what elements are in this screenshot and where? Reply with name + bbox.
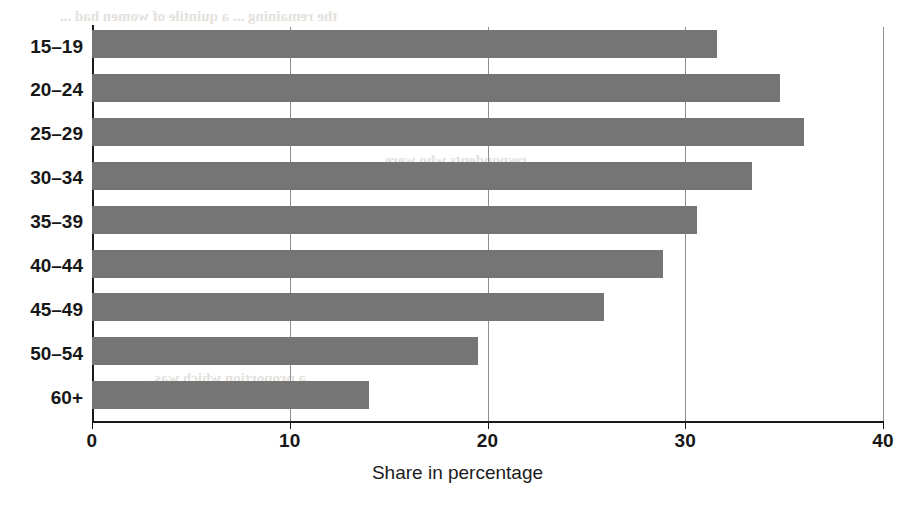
y-category-label: 30–34 bbox=[30, 168, 83, 187]
y-category-label: 20–24 bbox=[30, 80, 83, 99]
bar-chart: 15–1920–2425–2930–3435–3940–4445–4950–54… bbox=[0, 0, 915, 507]
bar bbox=[92, 118, 804, 146]
y-category-label: 35–39 bbox=[30, 212, 83, 231]
y-category-label: 15–19 bbox=[30, 37, 83, 56]
bar bbox=[92, 206, 697, 234]
x-tick-0 bbox=[92, 421, 93, 429]
bar bbox=[92, 30, 717, 58]
y-category-label: 50–54 bbox=[30, 344, 83, 363]
bar-row: 15–19 bbox=[92, 30, 883, 58]
x-tick-30 bbox=[685, 421, 686, 429]
x-tick-20 bbox=[488, 421, 489, 429]
bar-row: 60+ bbox=[92, 381, 883, 409]
bar-row: 30–34 bbox=[92, 162, 883, 190]
x-tick-label-30: 30 bbox=[674, 430, 696, 452]
bar bbox=[92, 337, 478, 365]
x-tick-label-10: 10 bbox=[279, 430, 301, 452]
y-category-label: 60+ bbox=[51, 388, 83, 407]
x-tick-10 bbox=[290, 421, 291, 429]
x-axis-title: Share in percentage bbox=[0, 462, 915, 484]
x-tick-label-20: 20 bbox=[477, 430, 499, 452]
x-tick-40 bbox=[883, 421, 884, 429]
bar-row: 45–49 bbox=[92, 293, 883, 321]
y-category-label: 45–49 bbox=[30, 300, 83, 319]
x-tick-label-40: 40 bbox=[872, 430, 894, 452]
bar-row: 20–24 bbox=[92, 74, 883, 102]
plot-area: 15–1920–2425–2930–3435–3940–4445–4950–54… bbox=[92, 27, 883, 421]
gridline-40 bbox=[883, 27, 884, 421]
bar bbox=[92, 293, 604, 321]
bar-row: 35–39 bbox=[92, 206, 883, 234]
bar-row: 25–29 bbox=[92, 118, 883, 146]
bar bbox=[92, 381, 369, 409]
bar bbox=[92, 74, 780, 102]
y-category-label: 40–44 bbox=[30, 256, 83, 275]
bar-row: 50–54 bbox=[92, 337, 883, 365]
x-tick-label-0: 0 bbox=[87, 430, 98, 452]
bar-row: 40–44 bbox=[92, 250, 883, 278]
bar bbox=[92, 162, 752, 190]
y-category-label: 25–29 bbox=[30, 124, 83, 143]
bar bbox=[92, 250, 663, 278]
